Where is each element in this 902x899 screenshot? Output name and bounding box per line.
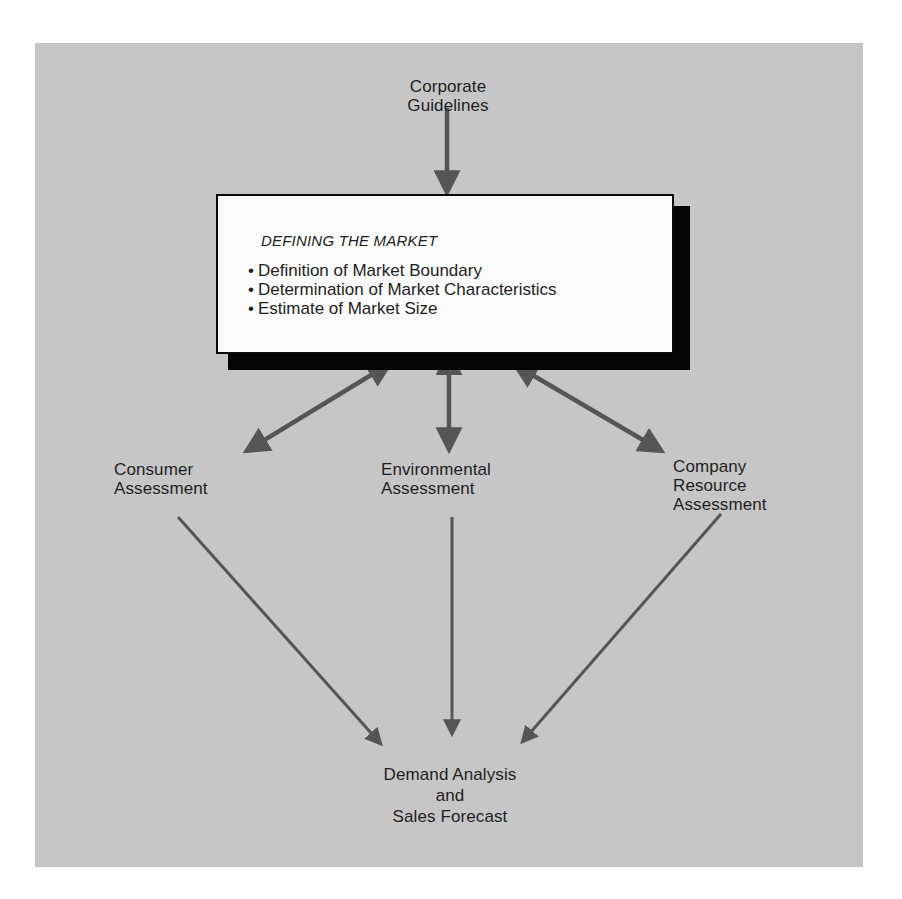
list-item: Definition of Market Boundary — [248, 261, 557, 280]
node-consumer-assessment: Consumer Assessment — [114, 460, 208, 498]
defining-market-list: Definition of Market Boundary Determinat… — [248, 261, 557, 318]
arrow-company-to-demand — [523, 514, 721, 741]
node-environmental-assessment: Environmental Assessment — [381, 460, 491, 498]
company-line1: Company — [673, 457, 767, 476]
corporate-guidelines-line2: Guidelines — [388, 96, 508, 115]
environmental-line2: Assessment — [381, 479, 491, 498]
node-company-resource-assessment: Company Resource Assessment — [673, 457, 767, 514]
arrow-consumer-to-demand — [178, 517, 380, 743]
demand-line2: and — [350, 785, 550, 806]
demand-line3: Sales Forecast — [350, 806, 550, 827]
demand-line1: Demand Analysis — [350, 764, 550, 785]
list-item: Estimate of Market Size — [248, 299, 557, 318]
node-defining-the-market: DEFINING THE MARKET Definition of Market… — [216, 194, 674, 354]
consumer-line1: Consumer — [114, 460, 208, 479]
node-demand-analysis: Demand Analysis and Sales Forecast — [350, 764, 550, 827]
consumer-line2: Assessment — [114, 479, 208, 498]
defining-market-title: DEFINING THE MARKET — [261, 232, 437, 249]
list-item: Determination of Market Characteristics — [248, 280, 557, 299]
arrow-market-company — [529, 373, 660, 450]
environmental-line1: Environmental — [381, 460, 491, 479]
corporate-guidelines-line1: Corporate — [388, 77, 508, 96]
company-line3: Assessment — [673, 495, 767, 514]
company-line2: Resource — [673, 476, 767, 495]
arrow-market-consumer — [248, 372, 376, 450]
node-corporate-guidelines: Corporate Guidelines — [388, 77, 508, 115]
